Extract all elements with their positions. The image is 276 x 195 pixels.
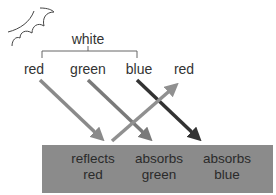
- surface-item-green: absorbs green: [135, 151, 183, 183]
- surface-box: reflects red absorbs green absorbs blue: [42, 145, 273, 193]
- green-incoming-arrow: [88, 80, 148, 137]
- green-component-label: green: [70, 62, 106, 76]
- blue-incoming-arrow: [137, 80, 197, 137]
- blue-component-label: blue: [126, 62, 152, 76]
- red-incoming-arrow: [40, 80, 100, 137]
- red-component-label: red: [24, 62, 44, 76]
- reflected-red-label: red: [174, 62, 194, 76]
- split-bracket: [42, 46, 137, 58]
- surface-item-blue: absorbs blue: [203, 151, 251, 183]
- sun-icon: [8, 8, 54, 46]
- white-light-label: white: [72, 32, 105, 46]
- surface-item-red: reflects red: [71, 151, 115, 183]
